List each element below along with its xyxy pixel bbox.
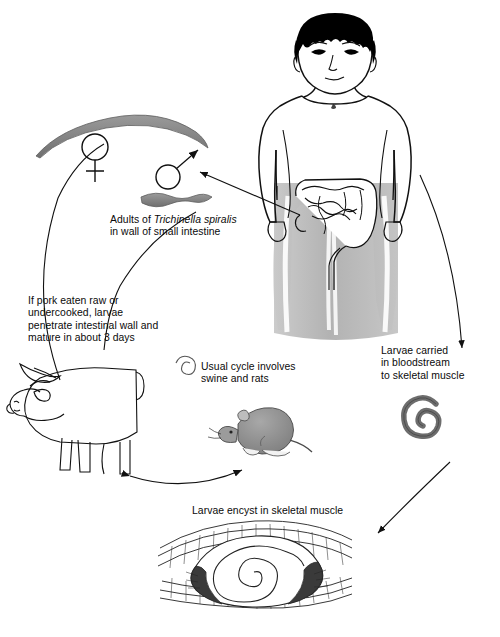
label-pork-eaten-raw: If pork eaten raw or undercooked, larvae…	[28, 295, 158, 345]
label-usual-cycle: Usual cycle involves swine and rats	[201, 361, 296, 386]
label-larvae-carried-bloodstream: Larvae carried in bloodstream to skeleta…	[381, 345, 464, 382]
encysted-larva-muscle	[158, 521, 352, 609]
label-larvae-encyst: Larvae encyst in skeletal muscle	[192, 505, 343, 517]
figure-canvas: Adults of Trichinella spiralis in wall o…	[0, 0, 500, 637]
arrow-pig-rat-cycle	[130, 470, 242, 484]
label-usual-line2: swine and rats	[201, 373, 269, 384]
adult-male-worm	[141, 193, 212, 207]
label-blood-line1: Larvae carried	[381, 345, 448, 356]
pig	[7, 364, 144, 474]
label-blood-line3: to skeletal muscle	[381, 370, 464, 381]
label-adults-line1-pre: Adults of	[110, 214, 154, 225]
coiled-larva	[404, 398, 439, 437]
male-sex-symbol	[156, 150, 198, 189]
adult-female-worm	[36, 115, 208, 158]
arrow-human-to-coiled-larva	[420, 175, 462, 348]
usual-cycle-larva-glyph	[176, 356, 195, 374]
label-blood-line2: in bloodstream	[381, 357, 450, 368]
rat	[208, 408, 312, 456]
label-adults-line2: in wall of small intestine	[110, 226, 220, 237]
label-pork-line3: penetrate intestinal wall and	[28, 320, 158, 331]
label-usual-line1: Usual cycle involves	[201, 361, 296, 372]
human-figure	[259, 13, 411, 340]
label-adults-species-name: Trichinella spiralis	[154, 214, 237, 225]
label-pork-line4: mature in about 3 days	[28, 332, 135, 343]
label-pork-line2: undercooked, larvae	[28, 307, 123, 318]
label-adults-of-trichinella: Adults of Trichinella spiralis in wall o…	[110, 214, 237, 239]
arrow-coiled-larva-to-muscle	[378, 462, 450, 533]
label-pork-line1: If pork eaten raw or	[28, 295, 119, 306]
